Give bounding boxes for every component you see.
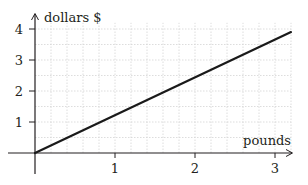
y-axis-title: dollars $ [44, 10, 102, 25]
x-tick-label: 1 [111, 161, 119, 176]
line-chart: 1231234 dollars $ pounds [0, 0, 308, 185]
y-tick-label: 1 [15, 115, 23, 130]
x-tick-label: 3 [271, 161, 279, 176]
x-tick-label: 2 [191, 161, 199, 176]
y-tick-label: 3 [15, 53, 23, 68]
chart-canvas: 1231234 dollars $ pounds [0, 0, 308, 185]
y-tick-label: 4 [15, 22, 23, 37]
y-tick-label: 2 [15, 84, 23, 99]
x-axis-title: pounds [243, 133, 291, 148]
